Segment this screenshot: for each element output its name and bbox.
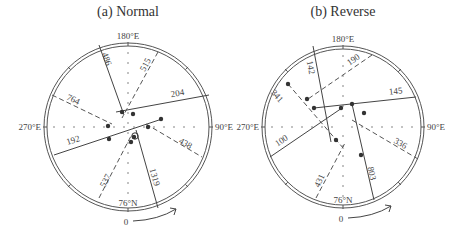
axis-dot-h [372, 126, 373, 128]
axis-dot-v [128, 92, 129, 94]
axis-dot-v [128, 132, 129, 134]
axis-dot-h [332, 126, 333, 128]
label-180E: 180°E [117, 31, 140, 41]
data-point [334, 138, 338, 142]
solid-line-803 [352, 104, 374, 200]
line-value-label: 486 [100, 51, 114, 68]
data-point [159, 117, 163, 121]
axis-dot-h [154, 126, 155, 128]
data-point [129, 140, 133, 144]
data-point [312, 106, 316, 110]
rotation-arrow-icon [133, 209, 176, 221]
data-point [107, 137, 111, 141]
stereonet-panel-reverse: (b) Reverse180°E270°E90°E76°N01421451008… [236, 4, 445, 224]
axis-dot-h [382, 126, 383, 128]
axis-dot-h [84, 126, 85, 128]
dashed-line-764 [52, 95, 112, 124]
data-point [359, 153, 363, 157]
solid-line-145 [314, 97, 416, 108]
label-76N: 76°N [118, 198, 138, 208]
axis-dot-h [64, 126, 65, 128]
axis-dot-v [128, 182, 129, 184]
dashed-line-190 [308, 55, 372, 99]
label-start-0: 0 [339, 214, 344, 224]
data-point [362, 111, 366, 115]
stereonet-figure: (a) Normal180°E270°E90°E76°N048620419213… [0, 0, 466, 230]
axis-dot-v [128, 152, 129, 154]
axis-dot-v [128, 122, 129, 124]
line-value-label: 431 [312, 173, 327, 189]
axis-dot-v [343, 85, 344, 87]
axis-dot-v [128, 62, 129, 64]
axis-dot-v [343, 135, 344, 137]
label-90E: 90°E [427, 122, 446, 132]
axis-dot-h [134, 126, 135, 128]
stereonet-panel-normal: (a) Normal180°E270°E90°E76°N048620419213… [18, 4, 233, 227]
data-point [120, 110, 124, 114]
dashed-line-537 [99, 136, 131, 198]
data-point [131, 112, 135, 116]
rotation-arrow-icon [348, 206, 391, 218]
axis-dot-h [184, 126, 185, 128]
line-value-label: 190 [345, 51, 362, 67]
axis-dot-v [343, 155, 344, 157]
label-start-0: 0 [124, 217, 129, 227]
axis-dot-v [128, 72, 129, 74]
axis-dot-h [302, 126, 303, 128]
line-value-label: 100 [273, 132, 290, 148]
line-value-label: 803 [366, 166, 379, 182]
axis-dot-v [128, 102, 129, 104]
axis-dot-h [402, 126, 403, 128]
data-point [305, 97, 309, 101]
axis-dot-h [174, 126, 175, 128]
axis-dot-v [343, 175, 344, 177]
axis-dot-h [164, 126, 165, 128]
axis-dot-v [128, 112, 129, 114]
axis-dot-v [343, 65, 344, 67]
axis-dot-h [292, 126, 293, 128]
axis-dot-h [114, 126, 115, 128]
data-point [146, 125, 150, 129]
axis-dot-v [343, 185, 344, 187]
axis-dot-h [282, 126, 283, 128]
axis-dot-v [128, 162, 129, 164]
line-value-label: 204 [170, 87, 186, 99]
axis-dot-h [352, 126, 353, 128]
panel-title: (b) Reverse [311, 4, 376, 20]
solid-line-100 [270, 108, 342, 157]
axis-dot-h [272, 126, 273, 128]
axis-dot-v [128, 192, 129, 194]
axis-dot-h [104, 126, 105, 128]
axis-dot-v [343, 95, 344, 97]
data-point [286, 82, 290, 86]
axis-dot-v [128, 172, 129, 174]
data-point [350, 102, 354, 106]
label-270E: 270°E [18, 122, 41, 132]
axis-dot-h [54, 126, 55, 128]
axis-dot-h [412, 126, 413, 128]
axis-dot-h [194, 126, 195, 128]
line-value-label: 192 [65, 133, 81, 147]
axis-dot-v [343, 165, 344, 167]
axis-dot-h [392, 126, 393, 128]
axis-dot-v [343, 115, 344, 117]
line-value-label: 438 [177, 136, 194, 152]
axis-dot-v [343, 55, 344, 57]
line-value-label: 336 [392, 136, 409, 152]
axis-dot-v [128, 52, 129, 54]
line-value-label: 764 [65, 92, 82, 107]
axis-dot-h [74, 126, 75, 128]
axis-dot-h [144, 126, 145, 128]
inner-ring [265, 49, 421, 205]
axis-dot-v [128, 142, 129, 144]
axis-dot-h [312, 126, 313, 128]
axis-dot-h [322, 126, 323, 128]
line-value-label: 142 [305, 60, 317, 75]
line-value-label: 145 [388, 85, 403, 96]
dashed-line-438 [146, 124, 202, 157]
label-76N: 76°N [333, 195, 353, 205]
line-value-label: 1319 [148, 167, 163, 188]
data-point [339, 106, 343, 110]
data-point [106, 124, 110, 128]
line-value-label: 341 [269, 88, 285, 105]
